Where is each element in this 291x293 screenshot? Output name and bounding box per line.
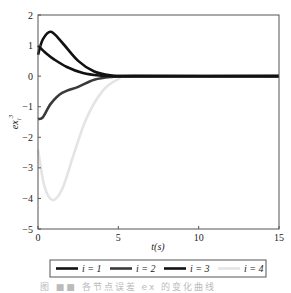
legend-label: i = 3 xyxy=(190,263,210,274)
y-tick-label: −1 xyxy=(22,101,33,112)
x-tick-label: 0 xyxy=(36,232,41,243)
x-tick-label: 15 xyxy=(274,232,284,243)
x-tick-label: 5 xyxy=(116,232,121,243)
y-tick-label: −4 xyxy=(22,193,33,204)
y-tick-label: 1 xyxy=(28,40,33,51)
plot-lines xyxy=(38,32,279,200)
y-tick-label: −3 xyxy=(22,162,33,173)
x-tick-label: 10 xyxy=(194,232,204,243)
series-line-2 xyxy=(38,76,279,119)
figure-caption: 图 ■■ 各节点误差 ex 的变化曲线 xyxy=(40,280,216,293)
x-axis-label: t(s) xyxy=(151,241,165,253)
y-tick-label: −5 xyxy=(22,224,33,235)
y-tick-label: 0 xyxy=(28,71,33,82)
legend-label: i = 2 xyxy=(136,263,156,274)
legend: i = 1i = 2i = 3i = 4 xyxy=(50,260,266,277)
y-tick-label: −2 xyxy=(22,132,33,143)
series-line-3 xyxy=(38,46,279,77)
y-tick-label: 2 xyxy=(28,10,33,21)
series-line-4 xyxy=(38,76,279,200)
svg-text:exi3: exi3 xyxy=(7,114,23,129)
plot-frame xyxy=(38,15,279,229)
y-axis-label: exi3 xyxy=(7,114,23,129)
legend-label: i = 1 xyxy=(82,263,102,274)
axis-ticks: 210−1−2−3−4−5051015 xyxy=(22,10,284,244)
legend-label: i = 4 xyxy=(244,263,264,274)
